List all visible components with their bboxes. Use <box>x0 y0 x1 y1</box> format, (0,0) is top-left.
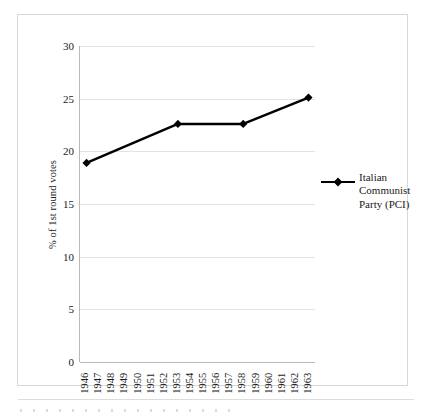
figure-frame: % of 1st round votes 051015202530 194619… <box>17 14 408 386</box>
data-point-1953 <box>174 120 182 128</box>
x-tick-text: 1947 <box>93 373 104 394</box>
x-tick-label-1956: 1956 <box>210 364 224 410</box>
x-tick-text: 1958 <box>238 373 249 394</box>
y-tick-label-20: 20 <box>63 146 74 157</box>
plot-area: 051015202530 <box>79 46 315 362</box>
x-tick-text: 1961 <box>277 373 288 394</box>
x-tick-label-1949: 1949 <box>118 364 132 410</box>
x-tick-label-1948: 1948 <box>105 364 119 410</box>
x-tick-label-1952: 1952 <box>157 364 171 410</box>
x-tick-text: 1953 <box>172 373 183 394</box>
x-tick-label-1957: 1957 <box>223 364 237 410</box>
x-tick-text: 1946 <box>80 373 91 394</box>
x-tick-text: 1952 <box>159 373 170 394</box>
x-tick-label-1955: 1955 <box>197 364 211 410</box>
x-tick-label-1961: 1961 <box>275 364 289 410</box>
legend-diamond-icon <box>321 177 355 187</box>
x-tick-label-1950: 1950 <box>131 364 145 410</box>
y-axis-title-label: % of 1st round votes <box>47 160 58 249</box>
x-tick-label-1960: 1960 <box>262 364 276 410</box>
y-tick-label-5: 5 <box>69 304 75 315</box>
data-point-1946 <box>82 159 90 167</box>
x-tick-label-1951: 1951 <box>144 364 158 410</box>
data-point-1963 <box>304 94 312 102</box>
x-tick-label-1963: 1963 <box>301 364 315 410</box>
x-tick-text: 1962 <box>290 373 301 394</box>
x-tick-text: 1960 <box>264 373 275 394</box>
y-tick-label-0: 0 <box>69 357 75 368</box>
x-tick-text: 1954 <box>185 373 196 394</box>
y-tick-label-30: 30 <box>63 41 74 52</box>
scan-artifact-rule <box>18 399 414 400</box>
chart-legend: Italian Communist Party (PCI) <box>321 171 419 211</box>
x-tick-label-1958: 1958 <box>236 364 250 410</box>
x-tick-label-1947: 1947 <box>92 364 106 410</box>
x-tick-text: 1956 <box>211 373 222 394</box>
x-tick-text: 1957 <box>225 373 236 394</box>
y-axis-title: % of 1st round votes <box>44 46 60 362</box>
legend-entry-label: Italian Communist Party (PCI) <box>359 171 419 211</box>
data-point-1958 <box>239 120 247 128</box>
series-line-0 <box>87 98 309 163</box>
x-tick-text: 1951 <box>146 373 157 394</box>
x-tick-text: 1963 <box>303 373 314 394</box>
x-tick-text: 1950 <box>133 373 144 394</box>
x-tick-label-1953: 1953 <box>170 364 184 410</box>
series-line-chart <box>80 46 315 362</box>
x-tick-label-1954: 1954 <box>183 364 197 410</box>
x-tick-text: 1959 <box>251 373 262 394</box>
y-tick-label-15: 15 <box>63 199 74 210</box>
x-tick-text: 1948 <box>107 373 118 394</box>
x-tick-label-1962: 1962 <box>288 364 302 410</box>
x-tick-text: 1955 <box>198 373 209 394</box>
y-tick-label-25: 25 <box>63 93 74 104</box>
x-axis-labels: 1946194719481949195019511952195319541955… <box>79 364 315 410</box>
gridline-0: 0 <box>80 362 315 363</box>
y-tick-label-10: 10 <box>63 251 74 262</box>
x-tick-label-1959: 1959 <box>249 364 263 410</box>
x-tick-label-1946: 1946 <box>79 364 93 410</box>
x-tick-text: 1949 <box>120 373 131 394</box>
scan-artifact-speckle <box>20 409 240 412</box>
